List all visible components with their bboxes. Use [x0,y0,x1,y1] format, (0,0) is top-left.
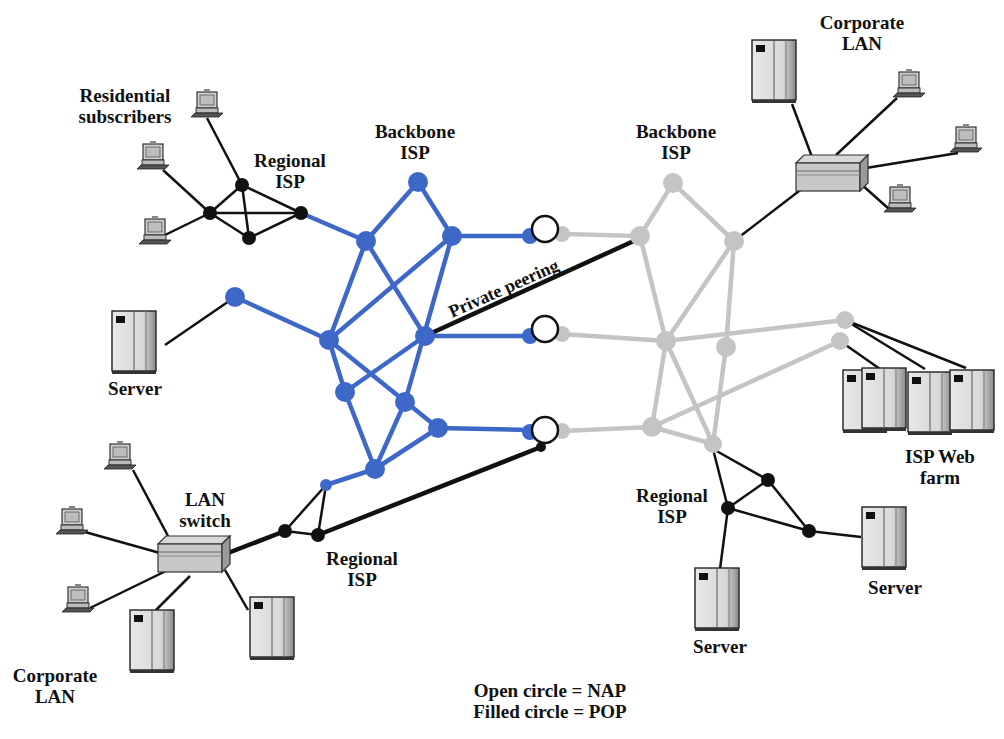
regional-isp-bottom-right-links [713,449,861,569]
workstation-icon [191,89,223,117]
nap-nodes [532,216,558,443]
server-icon [112,311,156,374]
web-farm-server-icon [843,368,906,433]
network-switch-icon [158,536,230,572]
backbone-isp-left-label: BackboneISP [365,121,465,163]
server-icon [862,507,906,570]
workstation-icon [62,584,94,612]
workstation-icon [137,141,169,169]
server-bottom-center-label: Server [680,636,760,657]
regional-isp-top-left-label: RegionalISP [240,150,340,192]
regional-isp-bottom-left-label: RegionalISP [312,548,412,590]
server-icon [752,40,796,103]
private-peering-link [425,240,636,336]
server-icon [250,597,294,660]
workstation-icon [950,124,982,152]
workstation-icon [104,441,136,469]
backbone-isp-left-links [235,182,528,485]
regional-isp-bottom-left-links [285,485,326,535]
backbone-isp-right-label: BackboneISP [626,121,726,163]
network-switch-icon [796,155,868,191]
workstation-icon [56,506,88,534]
workstation-icon [139,216,171,244]
server-icon [695,568,739,631]
corporate-lan-top-right-label: CorporateLAN [802,12,922,54]
web-farm-server-icon [908,372,952,435]
server-bottom-right-label: Server [855,577,935,598]
server-icon [130,610,174,673]
legend: Open circle = NAP Filled circle = POP [430,680,670,722]
web-farm-links [840,320,966,369]
web-farm-server-icon [950,370,994,433]
corporate-lan-bottom-left-label: CorporateLAN [0,665,110,707]
legend-filled-circle: Filled circle = POP [430,701,670,722]
private-peering-label: Private peering [445,255,561,321]
server-left-label: Server [95,378,175,399]
workstation-icon [893,69,925,97]
isp-web-farm-label: ISP Webfarm [890,446,990,488]
pop-nodes-backbone-left [225,172,538,491]
workstation-icon [884,184,916,212]
residential-subscribers-label: Residentialsubscribers [60,85,190,127]
legend-open-circle: Open circle = NAP [430,680,670,701]
regional-isp-bottom-right-label: RegionalISP [622,485,722,527]
server-left-link [165,297,235,345]
backbone-isp-right-links [562,183,845,444]
lan-switch-label: LANswitch [165,489,245,531]
